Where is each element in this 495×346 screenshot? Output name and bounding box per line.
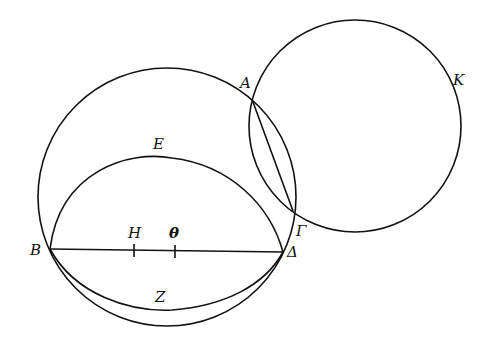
figure-drawing <box>0 0 495 346</box>
large-circle <box>38 68 296 326</box>
label-H: H <box>128 226 141 241</box>
geometry-figure: A K E B H θ Γ Δ Z <box>0 0 495 346</box>
label-E: E <box>153 137 164 152</box>
ellipse-upper-arc-E <box>50 156 283 252</box>
label-delta: Δ <box>287 245 298 260</box>
label-B: B <box>30 243 41 258</box>
label-gamma: Γ <box>296 224 306 239</box>
line-B-Delta <box>50 249 283 252</box>
label-A: A <box>240 76 251 91</box>
ellipse-lower-arc-Z <box>50 249 283 310</box>
chord-A-Gamma <box>253 102 293 211</box>
label-theta: θ <box>169 226 179 241</box>
label-Z: Z <box>155 290 165 305</box>
circle-k <box>249 20 461 232</box>
label-K: K <box>453 73 464 88</box>
